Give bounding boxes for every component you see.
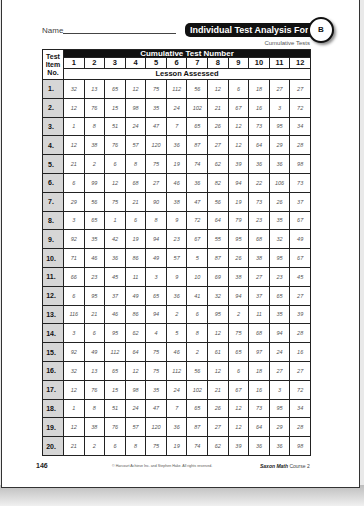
lesson-cell: 23	[249, 211, 270, 230]
lesson-cell: 27	[146, 173, 167, 192]
lesson-cell: 112	[166, 80, 187, 99]
lesson-cell: 12	[208, 361, 229, 380]
lesson-cell: 42	[105, 230, 126, 249]
lesson-cell: 67	[290, 249, 311, 268]
lesson-cell: 10	[187, 267, 208, 286]
lesson-cell: 74	[187, 437, 208, 456]
lesson-cell: 16	[249, 98, 270, 117]
item-number-cell: 12.	[43, 286, 64, 305]
lesson-cell: 29	[269, 418, 290, 437]
lesson-cell: 6	[125, 211, 146, 230]
lesson-cell: 86	[125, 305, 146, 324]
cumulative-test-header: Cumulative Test Number	[64, 50, 311, 58]
lesson-cell: 36	[249, 155, 270, 174]
lesson-cell: 56	[187, 80, 208, 99]
lesson-cell: 64	[249, 418, 270, 437]
lesson-cell: 12	[105, 173, 126, 192]
lesson-cell: 65	[187, 117, 208, 136]
lesson-cell: 49	[290, 230, 311, 249]
lesson-cell: 27	[290, 80, 311, 99]
lesson-cell: 6	[228, 80, 249, 99]
lesson-cell: 24	[166, 380, 187, 399]
table-row: 4.1238765712036872712642928	[43, 136, 311, 155]
lesson-cell: 36	[249, 437, 270, 456]
lesson-cell: 68	[249, 324, 270, 343]
lesson-cell: 47	[146, 117, 167, 136]
lesson-cell: 2	[84, 437, 105, 456]
worksheet-page: Name Individual Test Analysis Form B Cum…	[1, 0, 360, 488]
lesson-cell: 97	[249, 343, 270, 362]
lesson-cell: 12	[228, 117, 249, 136]
lesson-cell: 49	[146, 249, 167, 268]
lesson-cell: 1	[105, 211, 126, 230]
lesson-cell: 21	[208, 380, 229, 399]
lesson-cell: 5	[166, 324, 187, 343]
lesson-cell: 36	[269, 155, 290, 174]
lesson-cell: 41	[187, 286, 208, 305]
item-number-header: Test Item No.	[43, 50, 64, 80]
lesson-cell: 65	[105, 80, 126, 99]
lesson-cell: 75	[146, 155, 167, 174]
table-row: 12.69537496536413294376527	[43, 286, 311, 305]
table-row: 10.71463686495758726389567	[43, 249, 311, 268]
lesson-cell: 12	[208, 80, 229, 99]
table-row: 17.127615983524102216716372	[43, 380, 311, 399]
lesson-cell: 2	[228, 305, 249, 324]
table-row: 7.295675219038475619732637	[43, 192, 311, 211]
table-body: 1.3213651275112561261827272.127615983524…	[43, 80, 311, 456]
table-row: 18.185124477652612739534	[43, 399, 311, 418]
item-number-cell: 8.	[43, 211, 64, 230]
lesson-cell: 12	[125, 361, 146, 380]
lesson-cell: 64	[125, 343, 146, 362]
lesson-cell: 98	[290, 437, 311, 456]
lesson-cell: 94	[228, 173, 249, 192]
lesson-cell: 28	[290, 418, 311, 437]
lesson-cell: 46	[84, 249, 105, 268]
lesson-cell: 73	[249, 192, 270, 211]
lesson-cell: 102	[187, 380, 208, 399]
lesson-cell: 12	[64, 418, 85, 437]
lesson-cell: 75	[105, 192, 126, 211]
lesson-cell: 6	[64, 173, 85, 192]
lesson-cell: 106	[269, 173, 290, 192]
table-row: 9.923542199423675595683249	[43, 230, 311, 249]
test-analysis-table: Test Item No. Cumulative Test Number 123…	[42, 49, 311, 456]
page-shadow	[0, 485, 364, 506]
lesson-cell: 120	[146, 418, 167, 437]
name-field-line[interactable]	[63, 33, 176, 34]
copyright-notice: © Harcourt Achieve Inc. and Stephen Hake…	[112, 464, 212, 468]
lesson-cell: 72	[187, 211, 208, 230]
lesson-cell: 65	[105, 361, 126, 380]
lesson-cell: 73	[249, 117, 270, 136]
item-number-cell: 17.	[43, 380, 64, 399]
lesson-cell: 75	[228, 324, 249, 343]
lesson-cell: 13	[84, 80, 105, 99]
name-label: Name	[42, 26, 63, 35]
lesson-cell: 1	[64, 117, 85, 136]
lesson-cell: 12	[125, 80, 146, 99]
lesson-cell: 37	[249, 286, 270, 305]
lesson-cell: 34	[290, 117, 311, 136]
lesson-cell: 26	[208, 399, 229, 418]
lesson-cell: 27	[249, 267, 270, 286]
lesson-cell: 3	[64, 324, 85, 343]
lesson-cell: 95	[84, 286, 105, 305]
lesson-cell: 38	[228, 267, 249, 286]
lesson-cell: 29	[269, 136, 290, 155]
item-number-cell: 5.	[43, 155, 64, 174]
lesson-cell: 8	[125, 437, 146, 456]
lesson-cell: 24	[269, 343, 290, 362]
lesson-cell: 76	[105, 418, 126, 437]
test-number-header: 7	[187, 58, 208, 69]
lesson-cell: 24	[166, 98, 187, 117]
lesson-cell: 95	[269, 117, 290, 136]
lesson-cell: 120	[146, 136, 167, 155]
lesson-cell: 65	[228, 343, 249, 362]
lesson-cell: 49	[125, 286, 146, 305]
item-number-cell: 4.	[43, 136, 64, 155]
lesson-cell: 21	[64, 155, 85, 174]
lesson-cell: 87	[208, 249, 229, 268]
item-number-cell: 11.	[43, 267, 64, 286]
lesson-cell: 71	[64, 249, 85, 268]
table-row: 14.3695624581275689428	[43, 324, 311, 343]
